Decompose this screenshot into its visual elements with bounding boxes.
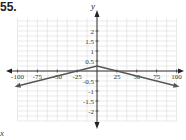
y-tick-label: 0.5: [85, 58, 94, 66]
graph: y-100-75-50-2525507510021.510.5-0.5-1-1.…: [0, 0, 186, 140]
x-tick-label: -25: [72, 73, 82, 81]
x-tick-label: 25: [113, 73, 121, 81]
y-tick-label: -1.5: [83, 98, 95, 106]
y-tick-label: 1.5: [85, 38, 94, 46]
y-tick-label: -1: [88, 88, 94, 96]
y-tick-label: 1: [91, 48, 95, 56]
x-tick-label: 100: [171, 73, 182, 81]
graph-end-arrow-icon: [173, 83, 179, 88]
x-tick-label: -100: [11, 73, 24, 81]
y-axis-up-arrow-icon: [95, 10, 100, 17]
y-tick-label: -2: [88, 108, 94, 116]
graph-end-arrow-icon: [15, 83, 21, 88]
y-axis-label: y: [90, 1, 95, 11]
y-axis-down-arrow-icon: [95, 122, 100, 129]
y-tick-label: -0.5: [83, 78, 95, 86]
y-tick-label: 2: [91, 28, 95, 36]
